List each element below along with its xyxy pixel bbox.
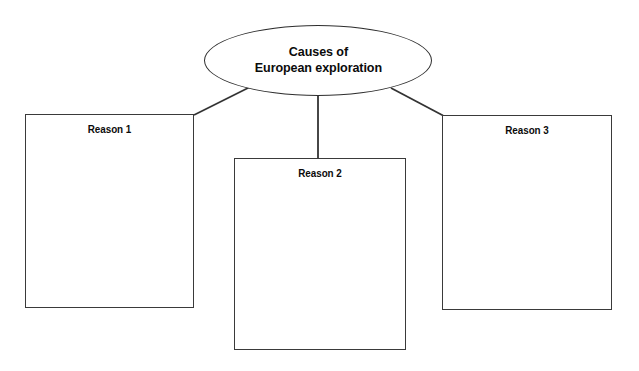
diagram-canvas: Causes of European exploration Reason 1 … [0, 0, 639, 371]
reason-box-3-label: Reason 3 [448, 124, 606, 136]
reason-box-1[interactable]: Reason 1 [25, 114, 194, 308]
reason-box-2[interactable]: Reason 2 [234, 158, 406, 350]
reason-box-1-label: Reason 1 [31, 123, 188, 135]
central-topic-title: Causes of European exploration [254, 44, 381, 78]
central-topic-ellipse: Causes of European exploration [204, 25, 432, 96]
reason-box-2-label: Reason 2 [240, 167, 400, 179]
connector-center-to-reason-3 [391, 88, 443, 116]
reason-box-3[interactable]: Reason 3 [442, 115, 612, 310]
connector-center-to-reason-1 [194, 88, 249, 116]
